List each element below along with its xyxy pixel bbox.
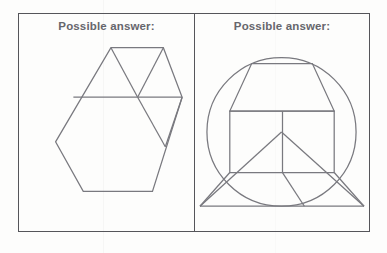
answer-cell-left: Possible answer: <box>19 14 195 231</box>
hexagon-diagonal-apex-to-center <box>111 48 138 98</box>
hexagon-outline <box>56 48 183 192</box>
hexagon-diagonal-topright-to-center <box>138 48 164 98</box>
answer-cell-right: Possible answer: <box>195 14 369 231</box>
lower-triangle-right-edge <box>282 132 365 206</box>
upper-trapezoid <box>230 64 334 112</box>
hexagon-diagonal-rightvertex-to-bottomright <box>165 97 182 147</box>
lower-right-slant <box>334 173 364 207</box>
answer-frame: Possible answer: Possible answer: <box>18 13 370 232</box>
circle-with-house-figure <box>195 14 369 231</box>
lower-triangle-left-edge <box>200 132 282 206</box>
divided-hexagon-figure <box>19 14 194 231</box>
hexagon-diagonal-center-to-bottomright <box>138 97 166 147</box>
lower-left-slant <box>200 173 230 207</box>
lower-inner-slant <box>282 173 304 207</box>
